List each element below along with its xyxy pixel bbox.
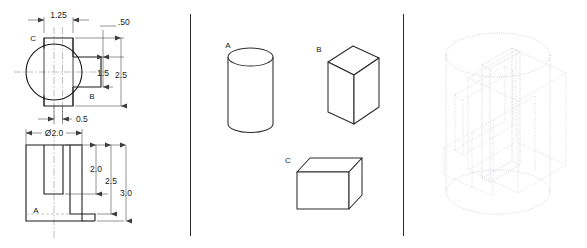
cylinder-top-ellipse	[228, 48, 273, 66]
solid-label-c: C	[285, 156, 291, 165]
plate-front-face	[297, 172, 349, 209]
wireframe-cylinder-top-ellipse	[446, 33, 550, 77]
part-label-c-top-view: C	[30, 34, 36, 43]
dim-text-2-5-front-view: 2.5	[105, 176, 117, 186]
front-view: Ø2.0 A 2.0 2.5 3.0	[26, 128, 132, 240]
top-view: 1.25 C .50 1.5 2.5 B 0.5	[14, 10, 130, 125]
dim-text-1-25: 1.25	[50, 10, 67, 20]
solid-label-b: B	[316, 45, 321, 54]
part-label-a-front-view: A	[33, 206, 39, 215]
wireframe-cylinder-bottom-ellipse	[446, 170, 550, 214]
dim-text-0-50: .50	[118, 17, 130, 27]
solid-c-plate: C	[285, 156, 362, 209]
wireframe-cross-member-top	[455, 66, 513, 100]
wireframe-prism-bottom	[468, 142, 566, 193]
dim-text-0-5: 0.5	[76, 114, 88, 124]
solid-a-cylinder: A	[225, 41, 273, 133]
part-label-b-top-view: B	[89, 92, 94, 101]
front-view-slot-outline	[44, 145, 63, 194]
wireframe-prism-verticals	[468, 50, 566, 193]
wireframe-assembly	[444, 33, 566, 214]
solid-label-a: A	[225, 41, 231, 50]
wireframe-cross-member-bottom	[455, 121, 513, 155]
wireframe-cross-member-verticals	[455, 66, 513, 155]
dim-text-2-5-top-view: 2.5	[115, 70, 127, 80]
wireframe-plate-bottom	[482, 161, 520, 182]
wireframe-slot-edges	[493, 96, 535, 196]
solid-b-prism: B	[316, 45, 379, 124]
wireframe-base-diagonals	[444, 120, 493, 196]
technical-drawing-canvas: 1.25 C .50 1.5 2.5 B 0.5 Ø2.	[0, 0, 587, 248]
dim-text-1-5: 1.5	[97, 68, 109, 78]
cylinder-bottom-arc	[228, 124, 273, 133]
dim-text-2-0: 2.0	[90, 164, 102, 174]
drawing-sheet: 1.25 C .50 1.5 2.5 B 0.5 Ø2.	[0, 0, 587, 248]
dim-text-3-0: 3.0	[120, 188, 132, 198]
